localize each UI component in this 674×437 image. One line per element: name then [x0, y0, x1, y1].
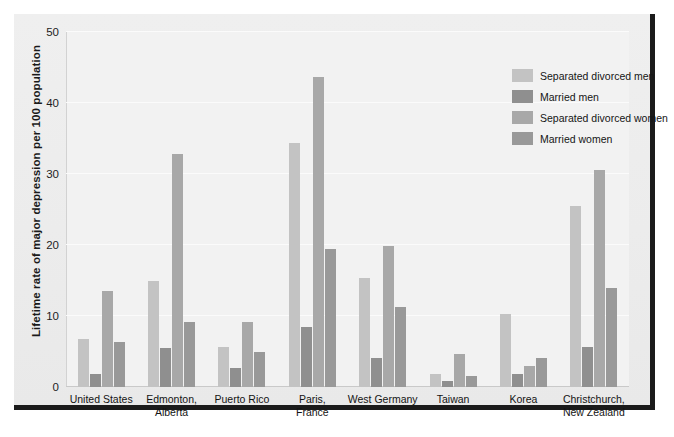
legend: Separated divorced menMarried menSeparat…	[512, 69, 668, 145]
bar[interactable]	[536, 358, 547, 387]
bar[interactable]	[500, 314, 511, 387]
legend-item[interactable]: Separated divorced men	[512, 69, 668, 82]
bar[interactable]	[430, 374, 441, 387]
legend-swatch	[512, 132, 533, 145]
y-axis-tick-label: 20	[46, 239, 59, 251]
bar[interactable]	[594, 170, 605, 387]
bar[interactable]	[301, 327, 312, 387]
bar[interactable]	[570, 206, 581, 387]
bar[interactable]	[78, 339, 89, 387]
y-axis-title: Lifetime rate of major depression per 10…	[30, 26, 48, 356]
bar[interactable]	[466, 376, 477, 387]
y-axis-tick-label: 40	[46, 97, 59, 109]
y-axis-tick-label: 0	[53, 381, 59, 393]
figure-background: Lifetime rate of major depression per 10…	[14, 14, 650, 405]
bar[interactable]	[218, 347, 229, 387]
bar[interactable]	[254, 352, 265, 388]
bar-group: Taiwan	[418, 32, 488, 387]
bar[interactable]	[172, 154, 183, 387]
bar[interactable]	[289, 143, 300, 387]
legend-label: Separated divorced women	[540, 112, 668, 124]
bar-group: Paris, France	[277, 32, 347, 387]
bar[interactable]	[102, 291, 113, 387]
bar[interactable]	[606, 288, 617, 387]
x-axis-tick-label: Christchurch, New Zealand	[548, 393, 640, 419]
bar[interactable]	[242, 322, 253, 387]
bar[interactable]	[442, 381, 453, 387]
legend-label: Separated divorced men	[540, 70, 654, 82]
chart-screenshot: Lifetime rate of major depression per 10…	[0, 0, 674, 437]
legend-swatch	[512, 90, 533, 103]
bar[interactable]	[512, 374, 523, 387]
y-axis-tick-label: 30	[46, 168, 59, 180]
legend-label: Married women	[540, 133, 612, 145]
bar[interactable]	[230, 368, 241, 387]
bar[interactable]	[325, 249, 336, 387]
bar[interactable]	[371, 358, 382, 387]
bar[interactable]	[359, 278, 370, 387]
bar[interactable]	[524, 366, 535, 387]
legend-swatch	[512, 111, 533, 124]
legend-label: Married men	[540, 91, 599, 103]
bar[interactable]	[184, 322, 195, 387]
legend-item[interactable]: Married men	[512, 90, 668, 103]
bar-group: United States	[66, 32, 136, 387]
y-axis-tick-label: 10	[46, 310, 59, 322]
legend-item[interactable]: Married women	[512, 132, 668, 145]
bar[interactable]	[160, 348, 171, 387]
bar[interactable]	[454, 354, 465, 387]
bar[interactable]	[90, 374, 101, 387]
legend-swatch	[512, 69, 533, 82]
y-axis-tick-label: 50	[46, 26, 59, 38]
bar-group: Edmonton, Alberta	[136, 32, 206, 387]
bar[interactable]	[114, 342, 125, 387]
bar[interactable]	[395, 307, 406, 387]
legend-item[interactable]: Separated divorced women	[512, 111, 668, 124]
bar[interactable]	[582, 347, 593, 387]
bar[interactable]	[313, 77, 324, 387]
bar[interactable]	[148, 281, 159, 387]
figure-frame: Lifetime rate of major depression per 10…	[14, 14, 655, 410]
bar-group: West Germany	[348, 32, 418, 387]
bar-group: Puerto Rico	[207, 32, 277, 387]
bar[interactable]	[383, 246, 394, 387]
